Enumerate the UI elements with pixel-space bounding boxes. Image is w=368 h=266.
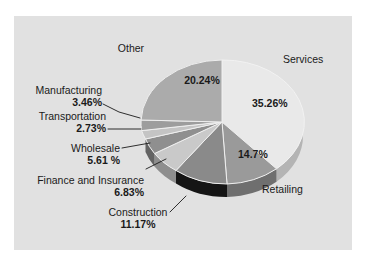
label-retailing-name: Retailing	[262, 183, 332, 195]
label-manufacturing: Manufacturing 3.46%	[14, 84, 102, 108]
label-construction-name: Construction	[92, 206, 184, 218]
value-retailing-percent: 14.7%	[238, 148, 298, 160]
label-finance-and-insurance-name: Finance and Insurance	[12, 174, 144, 186]
label-other-name: Other	[103, 42, 159, 54]
value-other: 20.24%	[170, 74, 234, 86]
leader-line-manufacturing	[103, 104, 140, 118]
label-retailing: Retailing	[262, 183, 332, 195]
label-finance-and-insurance: Finance and Insurance 6.83%	[12, 174, 144, 198]
value-services: 35.26%	[252, 97, 316, 109]
value-other-percent: 20.24%	[170, 74, 234, 86]
value-services-percent: 35.26%	[252, 97, 316, 109]
label-services: Services	[283, 53, 347, 65]
slice-other	[141, 60, 222, 122]
value-retailing: 14.7%	[238, 148, 298, 160]
value-manufacturing-percent: 3.46%	[14, 96, 102, 108]
pie-chart-figure: · · · · · · ·	[0, 0, 368, 266]
label-manufacturing-name: Manufacturing	[14, 84, 102, 96]
value-construction-percent: 11.17%	[92, 218, 184, 230]
label-transportation-name: Transportation	[18, 110, 106, 122]
label-wholesale: Wholesale 5.61 %	[36, 142, 120, 166]
label-other: Other	[103, 42, 159, 54]
label-transportation: Transportation 2.73%	[18, 110, 106, 134]
value-transportation-percent: 2.73%	[18, 122, 106, 134]
value-wholesale-percent: 5.61 %	[36, 154, 120, 166]
label-construction: Construction 11.17%	[92, 206, 184, 230]
label-services-name: Services	[283, 53, 347, 65]
value-finance-and-insurance-percent: 6.83%	[12, 186, 144, 198]
label-wholesale-name: Wholesale	[36, 142, 120, 154]
